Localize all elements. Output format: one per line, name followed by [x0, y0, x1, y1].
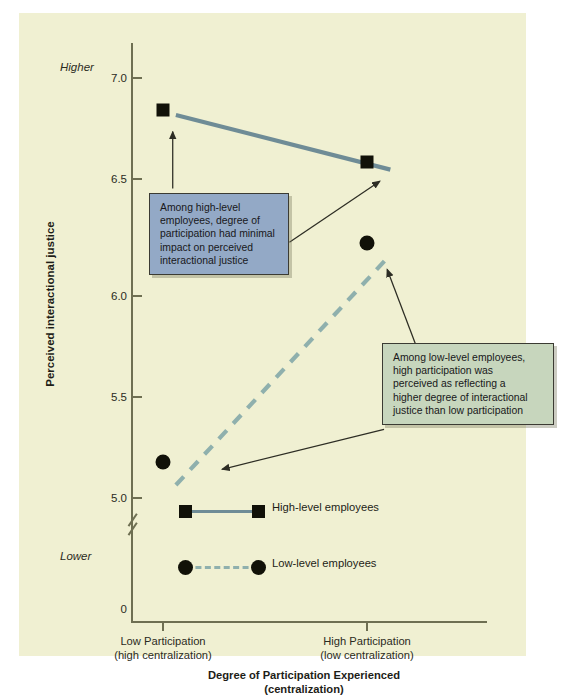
y-tick-mark-5-5: [133, 396, 142, 398]
y-tick-mark-7-0: [133, 77, 142, 79]
annotation-arrow-low-level-right: [387, 270, 415, 345]
annotation-low-level-line-2: high participation was: [393, 364, 544, 377]
chart-panel: 7.0 6.5 6.0 5.5 5.0 0 Higher Lower Perce…: [19, 13, 526, 656]
legend-line-solid-icon: [186, 510, 258, 513]
annotation-low-level-line-5: justice than low participation: [393, 404, 544, 417]
annotation-low-level-line-4: higher degree of interactional: [393, 391, 544, 404]
y-axis-line: [131, 43, 133, 623]
y-tick-label-0: 0: [81, 603, 127, 615]
legend-label-low-level: Low-level employees: [272, 557, 376, 569]
y-axis-lower-label: Lower: [60, 550, 91, 562]
x-tick-label-low-participation: Low Participation (high centralization): [68, 634, 258, 662]
annotation-high-level-line-2: employees, degree of: [160, 214, 279, 227]
annotation-arrow-low-level-left: [222, 429, 384, 469]
legend-circle-right-icon: [251, 560, 266, 575]
data-point-high-level-high-participation: [361, 156, 374, 169]
y-tick-mark-6-5: [133, 178, 142, 180]
x-tick-label-high-participation: High Participation (low centralization): [272, 634, 462, 662]
x-axis-title: Degree of Participation Experienced (cen…: [119, 668, 489, 696]
x-tick-mark-low-participation: [162, 623, 164, 631]
x-tick-label-high-participation-line2: (low centralization): [272, 648, 462, 662]
annotation-high-level-line-4: impact on perceived: [160, 241, 279, 254]
annotation-high-level-callout: Among high-level employees, degree of pa…: [149, 193, 289, 275]
series-line-high-level: [176, 115, 390, 170]
data-point-low-level-low-participation: [156, 455, 171, 470]
legend-item-high-level: High-level employees: [176, 503, 436, 519]
annotation-low-level-callout: Among low-level employees, high particip…: [382, 343, 554, 425]
annotation-low-level-line-3: perceived as reflecting a: [393, 377, 544, 390]
annotation-low-level-line-1: Among low-level employees,: [393, 351, 544, 364]
y-tick-label-5-5: 5.5: [81, 391, 127, 403]
x-tick-label-low-participation-line1: Low Participation: [68, 634, 258, 648]
y-tick-mark-5-0: [133, 497, 142, 499]
annotation-arrow-high-level-right: [289, 181, 379, 242]
x-axis-title-line1: Degree of Participation Experienced: [119, 668, 489, 682]
y-tick-label-6-0: 6.0: [81, 290, 127, 302]
x-axis-title-line2: (centralization): [119, 682, 489, 696]
y-axis-break-icon: [125, 513, 141, 535]
legend-square-right-icon: [252, 505, 265, 518]
x-tick-label-high-participation-line1: High Participation: [272, 634, 462, 648]
legend-item-low-level: Low-level employees: [176, 559, 436, 575]
legend-circle-left-icon: [178, 560, 193, 575]
annotation-high-level-line-5: interactional justice: [160, 254, 279, 267]
x-axis-line: [131, 621, 487, 623]
y-tick-label-7-0: 7.0: [81, 72, 127, 84]
y-tick-mark-6-0: [133, 295, 142, 297]
series-line-low-level: [176, 255, 390, 485]
x-tick-mark-high-participation: [366, 623, 368, 631]
y-axis-higher-label: Higher: [60, 61, 94, 73]
y-axis-title: Perceived interactional justice: [44, 204, 56, 404]
data-point-high-level-low-participation: [157, 104, 170, 117]
annotation-high-level-line-3: participation had minimal: [160, 227, 279, 240]
annotation-high-level-line-1: Among high-level: [160, 201, 279, 214]
x-tick-label-low-participation-line2: (high centralization): [68, 648, 258, 662]
y-tick-label-6-5: 6.5: [81, 173, 127, 185]
data-point-low-level-high-participation: [360, 236, 375, 251]
legend-label-high-level: High-level employees: [272, 501, 379, 513]
legend-line-dashed-icon: [186, 566, 258, 569]
legend-square-left-icon: [179, 505, 192, 518]
y-tick-label-5-0: 5.0: [81, 492, 127, 504]
